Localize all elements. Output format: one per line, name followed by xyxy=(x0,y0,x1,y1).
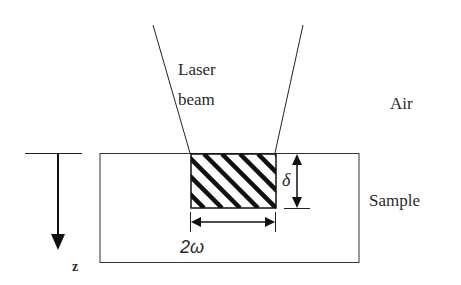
z-axis-arrow-icon xyxy=(51,153,65,250)
laser-heating-diagram: Laser beam Air Sample z δ 2ω xyxy=(0,0,461,285)
width-dimension-arrow-icon xyxy=(191,212,276,232)
beam-width-label: 2ω xyxy=(180,238,204,256)
heated-zone-hatched xyxy=(150,154,330,208)
laser-beam-label-line1: Laser xyxy=(178,55,216,85)
laser-beam-label-line2: beam xyxy=(178,85,216,115)
air-label: Air xyxy=(390,95,413,112)
diagram-graphics xyxy=(0,0,461,285)
z-axis-label: z xyxy=(72,260,78,274)
laser-beam-label: Laser beam xyxy=(178,55,216,115)
laser-beam-cone xyxy=(153,25,303,153)
sample-label: Sample xyxy=(369,192,420,209)
penetration-depth-label: δ xyxy=(282,171,290,189)
